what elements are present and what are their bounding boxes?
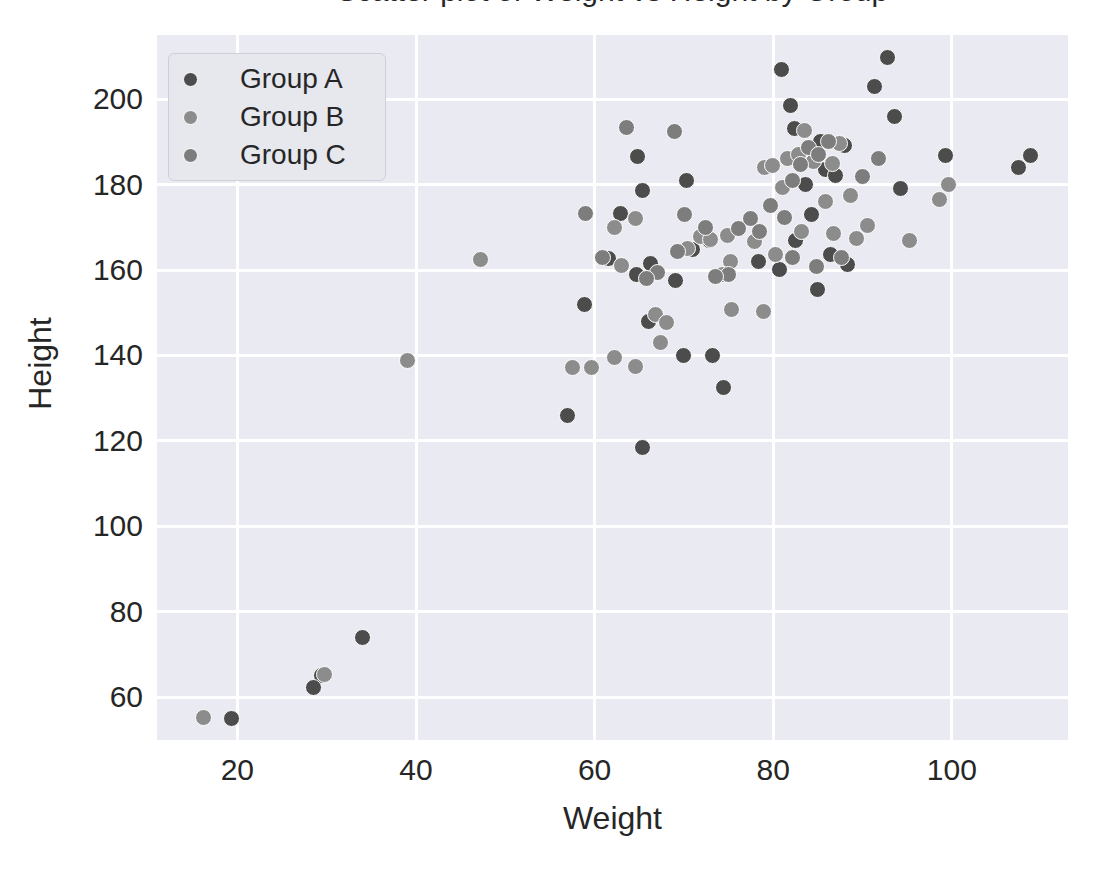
y-tick-label: 60: [3, 682, 143, 712]
scatter-point[interactable]: [658, 314, 675, 331]
x-axis-label: Weight: [157, 800, 1068, 837]
scatter-point[interactable]: [666, 123, 683, 140]
scatter-point[interactable]: [776, 209, 793, 226]
x-tick-label: 40: [356, 755, 476, 785]
scatter-point[interactable]: [796, 122, 813, 139]
scatter-point[interactable]: [866, 78, 883, 95]
scatter-point[interactable]: [886, 108, 903, 125]
x-tick-label: 60: [535, 755, 655, 785]
legend-item-label: Group B: [240, 103, 344, 131]
gridline-horizontal: [157, 525, 1068, 528]
scatter-point[interactable]: [940, 176, 957, 193]
scatter-point[interactable]: [354, 629, 371, 646]
scatter-point[interactable]: [755, 303, 772, 320]
gridline-horizontal: [157, 610, 1068, 613]
scatter-point[interactable]: [629, 148, 646, 165]
scatter-point[interactable]: [594, 249, 611, 266]
scatter-point[interactable]: [606, 349, 623, 366]
scatter-point[interactable]: [767, 246, 784, 263]
legend-item-label: Group A: [240, 65, 343, 93]
scatter-point[interactable]: [669, 243, 686, 260]
legend-marker-icon: [183, 148, 198, 163]
scatter-point[interactable]: [842, 187, 859, 204]
scatter-point[interactable]: [305, 679, 322, 696]
y-tick-label: 200: [3, 84, 143, 114]
gridline-horizontal: [157, 696, 1068, 699]
scatter-point[interactable]: [634, 439, 651, 456]
scatter-point[interactable]: [784, 172, 801, 189]
scatter-point[interactable]: [618, 119, 635, 136]
gridline-vertical: [772, 35, 775, 740]
scatter-point[interactable]: [559, 407, 576, 424]
scatter-point[interactable]: [803, 206, 820, 223]
scatter-point[interactable]: [817, 193, 834, 210]
scatter-point[interactable]: [652, 334, 669, 351]
scatter-point[interactable]: [892, 180, 909, 197]
scatter-point[interactable]: [782, 97, 799, 114]
scatter-point[interactable]: [750, 253, 767, 270]
scatter-point[interactable]: [808, 258, 825, 275]
scatter-plot-figure: Scatter plot of Weight vs Height by Grou…: [0, 0, 1106, 869]
scatter-point[interactable]: [784, 249, 801, 266]
scatter-point[interactable]: [901, 232, 918, 249]
x-tick-label: 80: [713, 755, 833, 785]
scatter-point[interactable]: [678, 172, 695, 189]
legend[interactable]: Group AGroup BGroup C: [168, 53, 386, 181]
scatter-point[interactable]: [583, 359, 600, 376]
scatter-point[interactable]: [1022, 147, 1039, 164]
gridline-horizontal: [157, 439, 1068, 442]
legend-marker-icon: [183, 72, 198, 87]
scatter-point[interactable]: [613, 257, 630, 274]
scatter-point[interactable]: [316, 666, 333, 683]
scatter-point[interactable]: [627, 358, 644, 375]
scatter-point[interactable]: [870, 150, 887, 167]
x-tick-label: 20: [177, 755, 297, 785]
scatter-point[interactable]: [879, 49, 896, 66]
scatter-point[interactable]: [809, 281, 826, 298]
gridline-vertical: [593, 35, 596, 740]
scatter-point[interactable]: [715, 379, 732, 396]
legend-item-group-c[interactable]: Group C: [169, 136, 385, 174]
scatter-point[interactable]: [577, 205, 594, 222]
chart-title: Scatter plot of Weight vs Height by Grou…: [157, 0, 1068, 8]
scatter-point[interactable]: [704, 347, 721, 364]
scatter-point[interactable]: [576, 296, 593, 313]
scatter-point[interactable]: [606, 219, 623, 236]
scatter-point[interactable]: [825, 225, 842, 242]
scatter-point[interactable]: [931, 191, 948, 208]
scatter-point[interactable]: [195, 709, 212, 726]
scatter-point[interactable]: [627, 210, 644, 227]
x-tick-label: 100: [892, 755, 1012, 785]
scatter-point[interactable]: [707, 268, 724, 285]
scatter-point[interactable]: [675, 347, 692, 364]
scatter-point[interactable]: [771, 261, 788, 278]
y-tick-label: 180: [3, 170, 143, 200]
scatter-point[interactable]: [634, 182, 651, 199]
scatter-point[interactable]: [667, 272, 684, 289]
scatter-point[interactable]: [223, 710, 240, 727]
x-axis-ticks: 20406080100: [157, 755, 1068, 795]
scatter-point[interactable]: [937, 147, 954, 164]
gridline-horizontal: [157, 183, 1068, 186]
scatter-point[interactable]: [751, 223, 768, 240]
scatter-point[interactable]: [792, 156, 809, 173]
legend-item-group-a[interactable]: Group A: [169, 60, 385, 98]
scatter-point[interactable]: [854, 168, 871, 185]
legend-item-group-b[interactable]: Group B: [169, 98, 385, 136]
scatter-point[interactable]: [564, 359, 581, 376]
scatter-point[interactable]: [676, 206, 693, 223]
scatter-point[interactable]: [472, 251, 489, 268]
scatter-point[interactable]: [697, 219, 714, 236]
scatter-point[interactable]: [638, 270, 655, 287]
legend-marker-icon: [183, 110, 198, 125]
legend-item-label: Group C: [240, 141, 346, 169]
gridline-horizontal: [157, 269, 1068, 272]
y-axis-label: Height: [22, 264, 59, 464]
scatter-point[interactable]: [833, 249, 850, 266]
scatter-point[interactable]: [859, 217, 876, 234]
scatter-point[interactable]: [723, 301, 740, 318]
scatter-point[interactable]: [793, 223, 810, 240]
scatter-point[interactable]: [399, 352, 416, 369]
gridline-vertical: [415, 35, 418, 740]
scatter-point[interactable]: [773, 61, 790, 78]
